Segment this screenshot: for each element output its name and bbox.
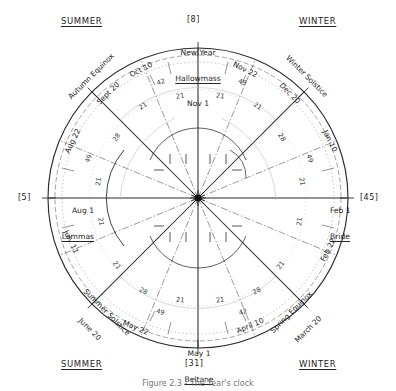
figure-canvas: SUMMER WINTER SUMMER WINTER [8] [5] [45]…: [0, 0, 396, 391]
ring-number-upper-right-21: 21: [215, 92, 224, 101]
ring-number-upper-left-21: 21: [175, 92, 184, 101]
cross-quarter-top-line2: Hallowmass: [158, 75, 238, 84]
ring-number-far-left-21: 21: [95, 177, 103, 186]
ring-number-lower-left-21: 21: [96, 217, 104, 226]
cross-quarter-right: Feb 1 Bride: [330, 190, 376, 258]
cross-quarter-bottom-line2: May 1: [172, 350, 226, 359]
bracket-left: [5]: [18, 194, 31, 203]
cross-quarter-top: New Year Hallowmass Nov 1: [158, 32, 238, 126]
cross-quarter-left: Aug 1 Lammas: [40, 190, 94, 258]
ring-number-low-right-21: 21: [216, 297, 225, 305]
figure-caption: Figure 2.3 - The Year's clock: [0, 379, 396, 388]
ring-number-far-right-21: 21: [297, 177, 305, 186]
bracket-top: [8]: [187, 16, 200, 25]
ring-number-low-left-21: 21: [176, 297, 185, 305]
ring-number-lower-right-21: 21: [296, 217, 304, 226]
cross-quarter-top-line1: New Year: [158, 49, 238, 58]
center-burst: [190, 190, 206, 206]
corner-label-top-right: WINTER: [299, 17, 336, 27]
cross-quarter-right-line2: Feb 1: [330, 207, 376, 216]
corner-label-top-left: SUMMER: [61, 17, 102, 27]
cross-quarter-top-line3: Nov 1: [158, 100, 238, 109]
cross-quarter-left-line2: Aug 1: [40, 207, 94, 216]
